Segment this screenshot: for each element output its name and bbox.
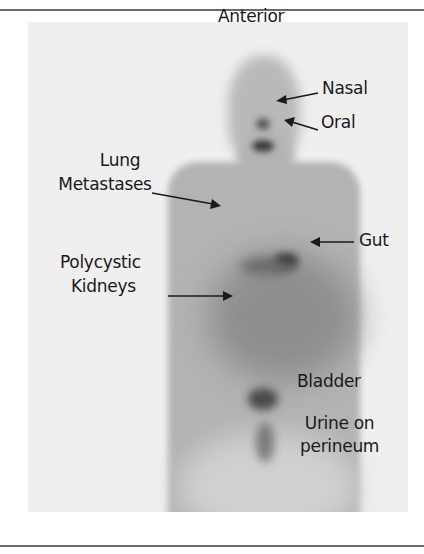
bottom-rule <box>0 545 424 547</box>
urine-label-line-2: perineum <box>300 435 379 458</box>
urine-on-perineum-label: Urine on perineum <box>300 412 379 458</box>
kidneys-arrow-icon <box>0 0 424 554</box>
bladder-label: Bladder <box>297 372 361 391</box>
urine-label-line-1: Urine on <box>300 412 379 435</box>
